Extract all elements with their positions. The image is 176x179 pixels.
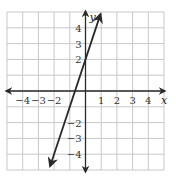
y-axis-label: y bbox=[89, 11, 97, 24]
x-tick-label: −2 bbox=[47, 95, 62, 106]
x-tick-label: 1 bbox=[98, 95, 104, 106]
y-tick-label: −2 bbox=[67, 118, 82, 129]
y-tick-label: 2 bbox=[75, 54, 81, 65]
x-axis-label: x bbox=[161, 94, 168, 107]
y-tick-label: 3 bbox=[75, 39, 81, 50]
x-tick-label: 4 bbox=[145, 95, 151, 106]
x-tick-label: 3 bbox=[129, 95, 135, 106]
x-tick-label: −4 bbox=[15, 95, 30, 106]
x-tick-label: −3 bbox=[31, 95, 46, 106]
x-tick-label: 2 bbox=[114, 95, 120, 106]
axes bbox=[6, 11, 165, 172]
y-tick-label: −4 bbox=[67, 149, 82, 160]
coordinate-plane: −4−3−21234432−2−3−4 x y bbox=[0, 0, 176, 179]
y-tick-label: −3 bbox=[67, 133, 82, 144]
y-tick-label: 4 bbox=[75, 23, 81, 34]
